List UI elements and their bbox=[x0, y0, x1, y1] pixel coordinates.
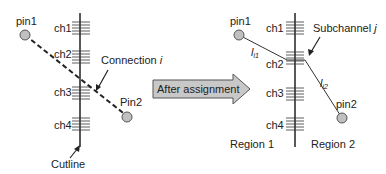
pin2-marker bbox=[337, 113, 347, 123]
channel-ticks bbox=[72, 22, 90, 130]
pin1-marker bbox=[20, 30, 30, 40]
channel-label: ch1 bbox=[266, 22, 284, 34]
region2-label: Region 2 bbox=[311, 138, 355, 150]
arrowhead-icon bbox=[308, 49, 314, 56]
cutline-label: Cutline bbox=[51, 158, 85, 170]
channel-label: ch3 bbox=[54, 86, 72, 98]
connection-pointer bbox=[98, 70, 108, 88]
arrow-label: After assignment bbox=[157, 83, 240, 95]
channel-label: ch2 bbox=[54, 48, 72, 60]
pin1-label: pin1 bbox=[230, 15, 251, 27]
channel-label: ch1 bbox=[54, 22, 72, 34]
channel-label: ch4 bbox=[54, 119, 72, 131]
pin2-label: Pin2 bbox=[120, 96, 142, 108]
channel-label: ch3 bbox=[266, 87, 284, 99]
after-assignment-arrow: After assignment bbox=[153, 74, 250, 104]
pin2-marker bbox=[122, 112, 132, 122]
pin2-label: pin2 bbox=[336, 98, 357, 110]
pin1-marker bbox=[234, 30, 244, 40]
segment2-label: li2 bbox=[320, 77, 328, 90]
connection-label: Connection i bbox=[101, 54, 163, 66]
channel-label: ch4 bbox=[266, 119, 284, 131]
region1-label: Region 1 bbox=[230, 138, 274, 150]
segment1-label: li1 bbox=[251, 46, 259, 59]
subchannel-label: Subchannel j bbox=[313, 22, 377, 34]
channel-label: ch2 bbox=[266, 58, 284, 70]
assignment-diagram: ch1 ch2 ch3 ch4 pin1 Pin2 Connection i C… bbox=[0, 0, 386, 174]
subchannel-pointer bbox=[311, 37, 320, 52]
left-panel: ch1 ch2 ch3 ch4 pin1 Pin2 Connection i C… bbox=[16, 13, 163, 170]
routed-connection bbox=[239, 35, 342, 118]
right-panel: ch1 ch2 ch3 ch4 pin1 pin2 li1 li2 Subcha… bbox=[230, 13, 377, 150]
connection-line bbox=[25, 35, 127, 116]
pin1-label: pin1 bbox=[16, 15, 37, 27]
